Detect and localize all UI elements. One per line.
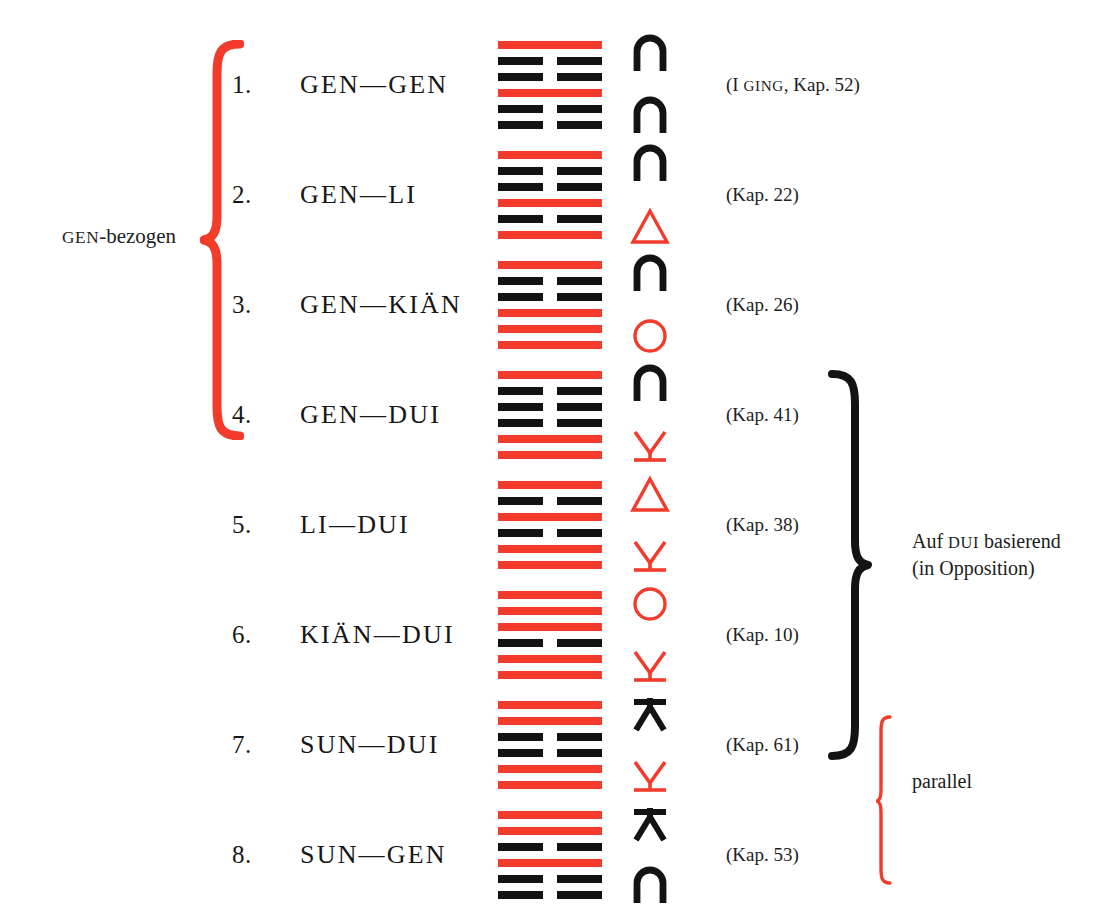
dui-basierend-suffix: basierend — [979, 530, 1061, 552]
dui-basierend-line1: Auf DUI basierend — [912, 528, 1061, 555]
sun-up-icon — [629, 804, 671, 844]
diagram-canvas: 1.GEN—GEN(I GING, Kap. 52)2.GEN—LI(Kap. … — [0, 0, 1100, 906]
hexagram-line-3-broken-black — [498, 73, 602, 81]
row-trigram-pair-label: LI—DUI — [300, 510, 410, 540]
hexagram-line-6-solid-red — [498, 451, 602, 459]
sun-up-icon — [629, 694, 671, 734]
hexagram-line-5-solid-red — [498, 325, 602, 333]
hexagram-line-3-broken-black — [498, 403, 602, 411]
hexagram-line-5-solid-red — [498, 435, 602, 443]
hexagram-line-6-solid-red — [498, 231, 602, 239]
dui-down-icon — [629, 536, 671, 576]
row-chapter-reference: (Kap. 41) — [726, 404, 799, 426]
chapter-prefix: (I — [726, 74, 743, 95]
hexagram-line-3-broken-black — [498, 293, 602, 301]
hexagram-line-4-solid-red — [498, 309, 602, 317]
gen-arch-icon — [629, 34, 671, 74]
hexagram-line-3-broken-black — [498, 733, 602, 741]
hexagram-line-2-solid-red — [498, 717, 602, 725]
hexagram-line-3-broken-black — [498, 183, 602, 191]
hexagram-lines — [498, 147, 602, 243]
gen-bezogen-label: GEN-bezogen — [62, 222, 176, 250]
chapter-suffix: , Kap. 52) — [784, 74, 860, 95]
dui-basierend-label: Auf DUI basierend (in Opposition) — [912, 528, 1061, 582]
row-number: 7. — [232, 731, 252, 759]
hexagram-row: 6.KIÄN—DUI(Kap. 10) — [0, 580, 1100, 690]
gen-arch-icon — [629, 866, 671, 906]
row-chapter-reference: (Kap. 53) — [726, 844, 799, 866]
gen-arch-icon — [629, 144, 671, 184]
row-chapter-reference: (Kap. 38) — [726, 514, 799, 536]
row-number: 5. — [232, 511, 252, 539]
trigram-glyph-pair — [622, 474, 678, 576]
hexagram-line-4-broken-black — [498, 419, 602, 427]
row-trigram-pair-label: SUN—DUI — [300, 730, 440, 760]
hexagram-line-3-solid-red — [498, 513, 602, 521]
hexagram-line-1-solid-red — [498, 261, 602, 269]
hexagram-line-1-solid-red — [498, 371, 602, 379]
hexagram-lines — [498, 257, 602, 353]
trigram-glyph-pair — [622, 584, 678, 686]
trigram-glyph-pair — [622, 144, 678, 246]
hexagram-line-6-solid-red — [498, 781, 602, 789]
gen-arch-icon — [629, 364, 671, 404]
trigram-glyph-pair — [622, 34, 678, 136]
chapter-source-smallcaps: GING — [743, 77, 783, 94]
hexagram-line-6-solid-red — [498, 341, 602, 349]
hexagram-line-1-solid-red — [498, 41, 602, 49]
hexagram-row: 1.GEN—GEN(I GING, Kap. 52) — [0, 30, 1100, 140]
row-chapter-reference: (I GING, Kap. 52) — [726, 74, 860, 96]
row-chapter-reference: (Kap. 22) — [726, 184, 799, 206]
hexagram-line-5-broken-black — [498, 105, 602, 113]
hexagram-line-6-solid-red — [498, 671, 602, 679]
hexagram-lines — [498, 477, 602, 573]
gen-arch-icon — [629, 96, 671, 136]
parallel-brace — [876, 714, 910, 886]
li-triangle-icon — [629, 474, 671, 514]
hexagram-line-1-solid-red — [498, 591, 602, 599]
row-trigram-pair-label: GEN—GEN — [300, 70, 448, 100]
row-trigram-pair-label: KIÄN—DUI — [300, 620, 455, 650]
kian-circle-icon — [629, 584, 671, 624]
trigram-glyph-pair — [622, 804, 678, 906]
parallel-label: parallel — [912, 768, 972, 795]
gen-bezogen-smallcaps: GEN — [62, 228, 99, 247]
hexagram-line-4-solid-red — [498, 859, 602, 867]
hexagram-line-1-solid-red — [498, 701, 602, 709]
hexagram-line-2-broken-black — [498, 277, 602, 285]
hexagram-row: 4.GEN—DUI(Kap. 41) — [0, 360, 1100, 470]
hexagram-lines — [498, 37, 602, 133]
dui-down-icon — [629, 646, 671, 686]
row-chapter-reference: (Kap. 10) — [726, 624, 799, 646]
row-number: 6. — [232, 621, 252, 649]
row-trigram-pair-label: GEN—DUI — [300, 400, 441, 430]
trigram-glyph-pair — [622, 694, 678, 796]
gen-arch-icon — [629, 254, 671, 294]
row-chapter-reference: (Kap. 26) — [726, 294, 799, 316]
hexagram-line-2-solid-red — [498, 607, 602, 615]
trigram-glyph-pair — [622, 364, 678, 466]
li-triangle-icon — [629, 206, 671, 246]
hexagram-line-6-broken-black — [498, 891, 602, 899]
trigram-glyph-pair — [622, 254, 678, 356]
dui-down-icon — [629, 756, 671, 796]
hexagram-line-2-broken-black — [498, 387, 602, 395]
hexagram-line-6-broken-black — [498, 121, 602, 129]
hexagram-lines — [498, 587, 602, 683]
dui-basierend-smallcaps: DUI — [948, 533, 979, 552]
hexagram-line-2-broken-black — [498, 57, 602, 65]
hexagram-lines — [498, 697, 602, 793]
hexagram-line-6-solid-red — [498, 561, 602, 569]
gen-bezogen-rest: -bezogen — [99, 224, 176, 248]
hexagram-lines — [498, 807, 602, 903]
hexagram-line-4-broken-black — [498, 529, 602, 537]
row-chapter-reference: (Kap. 61) — [726, 734, 799, 756]
row-trigram-pair-label: GEN—KIÄN — [300, 290, 462, 320]
hexagram-row: 3.GEN—KIÄN(Kap. 26) — [0, 250, 1100, 360]
hexagram-line-4-solid-red — [498, 89, 602, 97]
hexagram-line-5-broken-black — [498, 215, 602, 223]
hexagram-line-5-solid-red — [498, 545, 602, 553]
hexagram-line-4-broken-black — [498, 749, 602, 757]
hexagram-line-5-solid-red — [498, 765, 602, 773]
hexagram-lines — [498, 367, 602, 463]
